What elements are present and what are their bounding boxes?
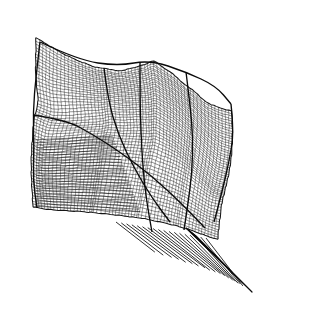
figure-root [0, 0, 325, 318]
wireframe-surface-plot [0, 0, 325, 318]
